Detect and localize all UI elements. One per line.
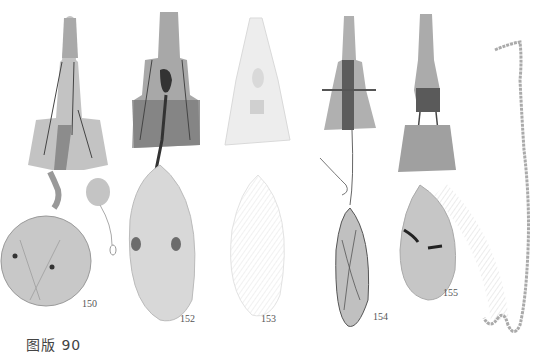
figure-label-150: 150 (82, 298, 97, 309)
specimen-154 (320, 16, 376, 326)
figure-label-153: 153 (261, 313, 276, 324)
specimen-150 (1, 16, 116, 306)
specimen-155 (398, 14, 500, 320)
figure-label-154: 154 (373, 311, 388, 322)
plate-caption: 图版 90 (26, 334, 81, 354)
specimen-152 (129, 12, 200, 321)
figure-label-152: 152 (180, 313, 195, 324)
specimen-153 (225, 18, 290, 316)
figure-label-155: 155 (443, 287, 458, 298)
